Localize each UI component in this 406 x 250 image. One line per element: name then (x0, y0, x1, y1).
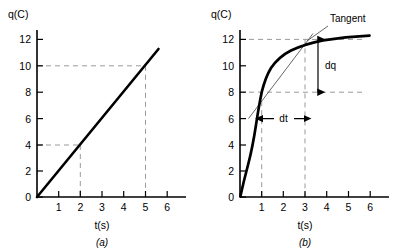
x-ticks-a (59, 191, 168, 197)
x-axis-title-b: t(s) (297, 219, 312, 231)
panel-b: Tangent dq dt 0 2 4 6 8 10 12 1 2 3 4 5 … (203, 0, 406, 250)
x-tick-label-2: 2 (280, 201, 286, 213)
y-axis-title-b: q(C) (211, 8, 231, 20)
x-tick-label-2: 2 (77, 201, 83, 213)
y-tick-label-10: 10 (222, 60, 234, 72)
x-tick-label-3: 3 (302, 201, 308, 213)
axes-a (37, 30, 186, 197)
caption-a: (a) (96, 237, 108, 248)
y-tick-label-12: 12 (19, 33, 31, 45)
panel-a-plot: 0 2 4 6 8 10 12 1 2 3 4 5 6 q(C) t(s) (a… (0, 0, 203, 250)
y-tick-label-0: 0 (25, 191, 31, 203)
y-tick-label-2: 2 (228, 165, 234, 177)
dt-label: dt (279, 113, 288, 124)
y-tick-label-12: 12 (222, 33, 234, 45)
y-tick-label-8: 8 (228, 86, 234, 98)
y-axis-title-a: q(C) (8, 8, 28, 20)
y-tick-label-6: 6 (228, 113, 234, 125)
axes-b (240, 30, 389, 197)
y-tick-label-4: 4 (25, 139, 31, 151)
x-tick-label-1: 1 (259, 201, 265, 213)
x-tick-label-6: 6 (367, 201, 373, 213)
x-tick-label-5: 5 (346, 201, 352, 213)
x-tick-label-4: 4 (324, 201, 330, 213)
y-tick-label-6: 6 (25, 113, 31, 125)
y-tick-label-2: 2 (25, 165, 31, 177)
x-tick-label-5: 5 (143, 201, 149, 213)
x-tick-label-1: 1 (56, 201, 62, 213)
x-tick-label-6: 6 (164, 201, 170, 213)
y-tick-label-0: 0 (228, 191, 234, 203)
data-line-linear (37, 49, 159, 197)
panel-a: 0 2 4 6 8 10 12 1 2 3 4 5 6 q(C) t(s) (a… (0, 0, 203, 250)
x-axis-title-a: t(s) (94, 219, 109, 231)
caption-b: (b) (299, 237, 311, 248)
y-ticks-a (37, 39, 43, 197)
y-tick-label-4: 4 (228, 139, 234, 151)
y-tick-label-8: 8 (25, 86, 31, 98)
panel-b-plot: Tangent dq dt 0 2 4 6 8 10 12 1 2 3 4 5 … (203, 0, 406, 250)
x-ticks-b (262, 191, 371, 197)
tangent-label: Tangent (330, 13, 366, 24)
x-tick-label-3: 3 (99, 201, 105, 213)
dq-label: dq (325, 60, 336, 71)
x-tick-label-4: 4 (121, 201, 127, 213)
y-tick-label-10: 10 (19, 60, 31, 72)
figure-container: 0 2 4 6 8 10 12 1 2 3 4 5 6 q(C) t(s) (a… (0, 0, 406, 250)
